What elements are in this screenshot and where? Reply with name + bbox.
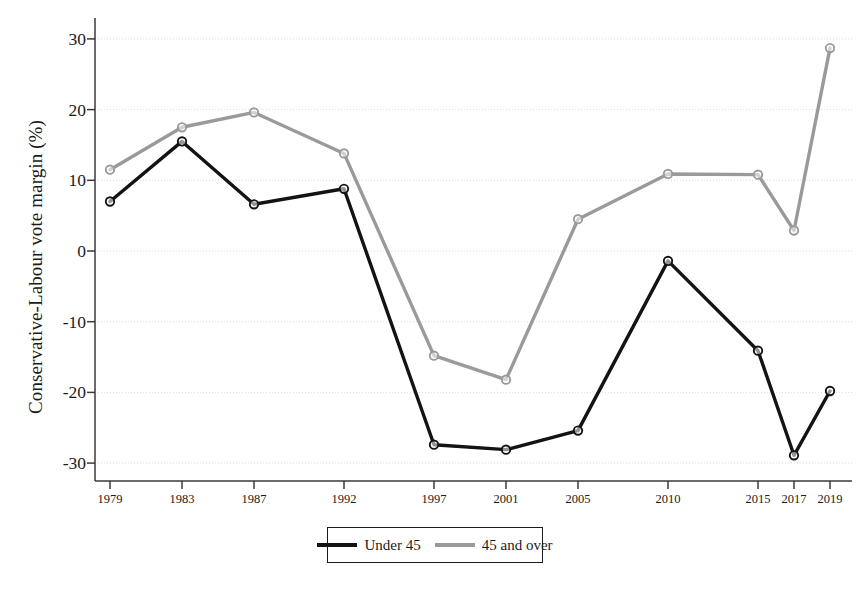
x-axis-tick-1992: 1992 bbox=[332, 492, 357, 507]
x-axis-tick-1987: 1987 bbox=[242, 492, 267, 507]
series-line-45-and-over bbox=[110, 48, 830, 380]
data-point bbox=[790, 226, 798, 234]
data-point bbox=[754, 170, 762, 178]
legend-item-under-45: Under 45 bbox=[317, 537, 420, 554]
data-point bbox=[664, 257, 672, 265]
data-point bbox=[250, 108, 258, 116]
legend-item-45-and-over: 45 and over bbox=[435, 537, 553, 554]
x-axis-tick-2019: 2019 bbox=[818, 492, 843, 507]
data-point bbox=[502, 445, 510, 453]
data-point bbox=[502, 375, 510, 383]
data-point bbox=[106, 165, 114, 173]
data-point bbox=[664, 170, 672, 178]
data-point bbox=[340, 149, 348, 157]
data-point bbox=[250, 200, 258, 208]
x-axis-tick-2005: 2005 bbox=[566, 492, 591, 507]
chart-figure: Conservative-Labour vote margin (%) 3020… bbox=[0, 0, 868, 597]
data-point bbox=[178, 123, 186, 131]
x-axis-tick-1979: 1979 bbox=[98, 492, 123, 507]
data-point bbox=[430, 351, 438, 359]
x-axis-tick-2001: 2001 bbox=[494, 492, 519, 507]
data-point bbox=[826, 44, 834, 52]
data-point bbox=[574, 426, 582, 434]
x-axis-tick-2010: 2010 bbox=[656, 492, 681, 507]
x-axis-tick-1983: 1983 bbox=[170, 492, 195, 507]
series-line-under-45 bbox=[110, 141, 830, 455]
chart-legend: Under 45 45 and over bbox=[327, 527, 543, 563]
data-point bbox=[178, 137, 186, 145]
legend-label-under-45: Under 45 bbox=[364, 537, 420, 554]
legend-swatch-under-45 bbox=[317, 543, 357, 548]
data-point bbox=[826, 387, 834, 395]
legend-label-45-and-over: 45 and over bbox=[482, 537, 553, 554]
legend-swatch-45-and-over bbox=[435, 543, 475, 547]
data-point bbox=[340, 185, 348, 193]
x-axis-tick-2017: 2017 bbox=[782, 492, 807, 507]
data-point bbox=[790, 451, 798, 459]
plot-area bbox=[0, 0, 868, 597]
data-point bbox=[574, 215, 582, 223]
x-axis-tick-1997: 1997 bbox=[422, 492, 447, 507]
x-axis-tick-2015: 2015 bbox=[746, 492, 771, 507]
data-point bbox=[430, 441, 438, 449]
data-point bbox=[754, 346, 762, 354]
data-point bbox=[106, 197, 114, 205]
